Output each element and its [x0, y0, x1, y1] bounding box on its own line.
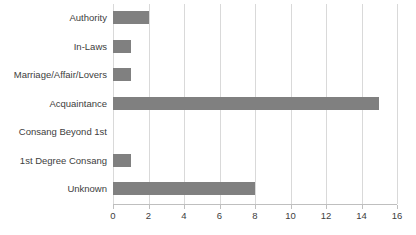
- x-tick-label: 8: [243, 210, 267, 222]
- bar-row: Marriage/Affair/Lovers: [113, 61, 397, 90]
- bar: [113, 97, 379, 110]
- bar: [113, 154, 131, 167]
- bar: [113, 68, 131, 81]
- category-label: Consang Beyond 1st: [0, 125, 107, 138]
- x-tick-label: 6: [208, 210, 232, 222]
- x-tick-label: 10: [279, 210, 303, 222]
- bar-row: Consang Beyond 1st: [113, 118, 397, 147]
- bar-row: Acquaintance: [113, 90, 397, 119]
- x-tick-label: 4: [172, 210, 196, 222]
- x-tick-label: 2: [137, 210, 161, 222]
- tick-mark-14: [362, 205, 363, 209]
- tick-mark-2: [149, 205, 150, 209]
- tick-mark-0: [113, 205, 114, 209]
- bar-chart: AuthorityIn-LawsMarriage/Affair/LoversAc…: [0, 0, 416, 235]
- bar: [113, 11, 149, 24]
- tick-mark-8: [255, 205, 256, 209]
- bar: [113, 40, 131, 53]
- category-label: Acquaintance: [0, 97, 107, 110]
- x-tick-label: 12: [314, 210, 338, 222]
- bar-row: Unknown: [113, 175, 397, 204]
- gridline-16: [397, 4, 398, 204]
- plot-area: AuthorityIn-LawsMarriage/Affair/LoversAc…: [113, 4, 397, 204]
- bar: [113, 182, 255, 195]
- bar-row: 1st Degree Consang: [113, 147, 397, 176]
- category-label: In-Laws: [0, 40, 107, 53]
- tick-mark-12: [326, 205, 327, 209]
- x-tick-label: 16: [385, 210, 409, 222]
- category-label: Unknown: [0, 182, 107, 195]
- category-label: 1st Degree Consang: [0, 154, 107, 167]
- bar-row: Authority: [113, 4, 397, 33]
- tick-mark-16: [397, 205, 398, 209]
- x-tick-label: 0: [101, 210, 125, 222]
- category-label: Marriage/Affair/Lovers: [0, 68, 107, 81]
- category-label: Authority: [0, 11, 107, 24]
- tick-mark-10: [291, 205, 292, 209]
- tick-mark-6: [220, 205, 221, 209]
- tick-mark-4: [184, 205, 185, 209]
- x-tick-label: 14: [350, 210, 374, 222]
- bar-row: In-Laws: [113, 33, 397, 62]
